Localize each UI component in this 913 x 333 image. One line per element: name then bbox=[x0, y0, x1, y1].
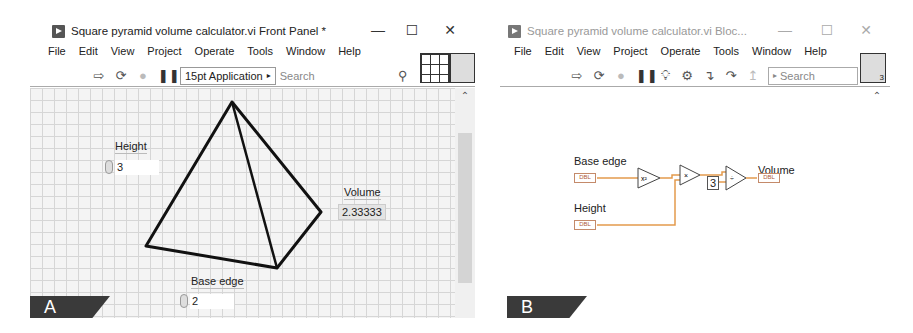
window-title: Square pyramid volume calculator.vi Fron… bbox=[71, 25, 326, 37]
base-edge-terminal-label: Base edge bbox=[574, 155, 627, 167]
wiring: x² × ÷ bbox=[500, 88, 870, 318]
front-panel-window: Square pyramid volume calculator.vi Fron… bbox=[30, 18, 475, 318]
height-terminal-label: Height bbox=[574, 202, 606, 214]
block-diagram-canvas[interactable]: ⌃ x² × ÷ Base edge DBL Height DBL Volume… bbox=[500, 88, 890, 318]
svg-text:x²: x² bbox=[641, 175, 648, 182]
search-arrow-icon: ▸ bbox=[773, 71, 777, 80]
menu-bar: File Edit View Project Operate Tools Win… bbox=[30, 45, 475, 63]
dropdown-arrow-icon: ▸ bbox=[267, 71, 271, 80]
pause-icon[interactable]: ❚❚ bbox=[636, 68, 650, 83]
scroll-up-icon[interactable]: ⌃ bbox=[872, 90, 882, 101]
menu-file[interactable]: File bbox=[48, 45, 66, 63]
highlight-execution-icon[interactable]: 💡︎ bbox=[658, 68, 672, 84]
menu-project[interactable]: Project bbox=[147, 45, 181, 63]
height-input[interactable]: 3 bbox=[115, 160, 159, 175]
search-input[interactable]: ▸ Search bbox=[768, 67, 858, 85]
font-select[interactable]: 15pt Application ▸ bbox=[180, 67, 276, 85]
menu-operate[interactable]: Operate bbox=[195, 45, 235, 63]
connector-pane-icon[interactable] bbox=[420, 53, 450, 83]
minimize-button[interactable]: — bbox=[368, 22, 388, 38]
vi-icon[interactable] bbox=[450, 53, 475, 83]
menu-view[interactable]: View bbox=[111, 45, 135, 63]
base-edge-increment-decrement[interactable] bbox=[180, 294, 188, 308]
close-button[interactable]: ✕ bbox=[856, 22, 876, 38]
run-arrow-icon[interactable]: ⇨ bbox=[92, 68, 106, 83]
menu-edit[interactable]: Edit bbox=[79, 45, 98, 63]
toolbar: ⇨ ⟳ ● ❚❚ 💡︎ ⚙ ↴ ↷ ↥ ▸ Search 3 bbox=[500, 65, 890, 87]
menu-bar: File Edit View Project Operate Tools Win… bbox=[500, 45, 890, 63]
abort-icon[interactable]: ● bbox=[136, 68, 150, 83]
front-panel-canvas[interactable]: Height 3 Volume 2.33333 Base edge 2 bbox=[30, 88, 455, 318]
menu-project[interactable]: Project bbox=[613, 45, 647, 63]
menu-help[interactable]: Help bbox=[804, 45, 827, 63]
menu-file[interactable]: File bbox=[514, 45, 532, 63]
run-arrow-icon[interactable]: ⇨ bbox=[570, 68, 584, 83]
menu-view[interactable]: View bbox=[577, 45, 601, 63]
labview-app-icon bbox=[508, 25, 521, 38]
vertical-scrollbar[interactable]: ⌃ bbox=[455, 88, 475, 318]
base-edge-label: Base edge bbox=[191, 275, 244, 289]
step-over-icon[interactable]: ↷ bbox=[724, 68, 738, 83]
svg-text:×: × bbox=[684, 172, 688, 179]
menu-operate[interactable]: Operate bbox=[661, 45, 701, 63]
volume-label: Volume bbox=[344, 186, 381, 200]
menu-tools[interactable]: Tools bbox=[713, 45, 739, 63]
minimize-button[interactable]: — bbox=[775, 22, 795, 38]
vi-icon[interactable]: 3 bbox=[860, 53, 886, 83]
pause-icon[interactable]: ❚❚ bbox=[158, 68, 172, 83]
abort-icon[interactable]: ● bbox=[614, 68, 628, 83]
base-edge-control[interactable]: 2 bbox=[180, 293, 234, 309]
title-bar: Square pyramid volume calculator.vi Bloc… bbox=[500, 18, 890, 44]
search-icon[interactable]: ⚲ bbox=[396, 68, 410, 83]
menu-help[interactable]: Help bbox=[338, 45, 361, 63]
height-label: Height bbox=[115, 140, 147, 154]
height-control[interactable]: 3 bbox=[105, 159, 159, 175]
title-bar: Square pyramid volume calculator.vi Fron… bbox=[30, 18, 475, 44]
maximize-button[interactable]: ☐ bbox=[817, 22, 837, 38]
search-input[interactable]: Search bbox=[276, 67, 386, 85]
volume-terminal[interactable]: DBL bbox=[758, 173, 780, 183]
run-continuously-icon[interactable]: ⟳ bbox=[592, 68, 606, 83]
step-out-icon[interactable]: ↥ bbox=[746, 68, 760, 83]
toolbar: ⇨ ⟳ ● ❚❚ 15pt Application ▸ Search ⚲ ? bbox=[30, 65, 475, 87]
scrollbar-thumb[interactable] bbox=[458, 133, 472, 283]
menu-edit[interactable]: Edit bbox=[545, 45, 564, 63]
height-increment-decrement[interactable] bbox=[105, 160, 113, 174]
svg-text:÷: ÷ bbox=[730, 175, 734, 182]
step-into-icon[interactable]: ↴ bbox=[702, 68, 716, 83]
labview-app-icon bbox=[52, 25, 65, 38]
block-diagram-window: Square pyramid volume calculator.vi Bloc… bbox=[500, 18, 890, 318]
base-edge-input[interactable]: 2 bbox=[190, 294, 234, 309]
volume-indicator: 2.33333 bbox=[338, 204, 386, 220]
maximize-button[interactable]: ☐ bbox=[402, 22, 422, 38]
retain-wire-values-icon[interactable]: ⚙ bbox=[680, 68, 694, 83]
height-terminal[interactable]: DBL bbox=[574, 220, 596, 230]
constant-three[interactable]: 3 bbox=[707, 176, 719, 190]
menu-window[interactable]: Window bbox=[286, 45, 325, 63]
run-continuously-icon[interactable]: ⟳ bbox=[114, 68, 128, 83]
window-title: Square pyramid volume calculator.vi Bloc… bbox=[527, 25, 747, 37]
close-button[interactable]: ✕ bbox=[440, 22, 460, 38]
base-edge-terminal[interactable]: DBL bbox=[574, 173, 596, 183]
scroll-up-icon[interactable]: ⌃ bbox=[455, 90, 475, 101]
menu-window[interactable]: Window bbox=[752, 45, 791, 63]
menu-tools[interactable]: Tools bbox=[247, 45, 273, 63]
